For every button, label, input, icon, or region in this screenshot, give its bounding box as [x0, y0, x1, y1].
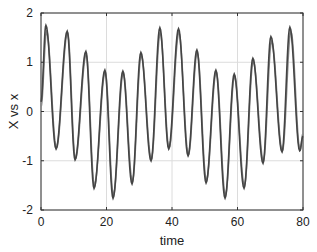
y-tick-label: 2: [26, 6, 33, 20]
line-chart: 020406080-2-1012 time X vs x: [0, 0, 317, 252]
x-tick-label: 80: [296, 215, 310, 229]
x-tick-label: 20: [100, 215, 114, 229]
x-tick-label: 40: [165, 215, 179, 229]
x-tick-label: 0: [38, 215, 45, 229]
x-tick-label: 60: [231, 215, 245, 229]
y-tick-label: -2: [22, 203, 33, 217]
y-tick-label: -1: [22, 154, 33, 168]
y-tick-label: 0: [26, 105, 33, 119]
x-axis-label: time: [160, 233, 185, 248]
y-axis-label: X vs x: [6, 93, 21, 129]
y-tick-label: 1: [26, 55, 33, 69]
